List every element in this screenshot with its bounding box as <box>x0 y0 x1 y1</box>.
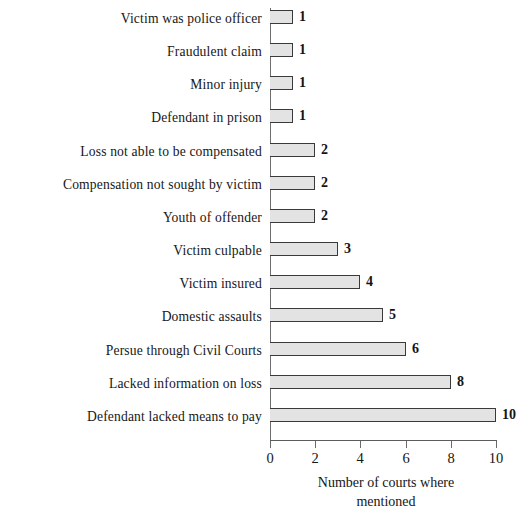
bar-value-label: 1 <box>299 76 306 90</box>
x-axis-tick-label: 4 <box>340 450 380 467</box>
bar <box>270 408 496 422</box>
x-axis-tick-label: 0 <box>250 450 290 467</box>
bar <box>270 43 293 57</box>
category-label: Minor injury <box>0 77 266 92</box>
category-label: Lacked information on loss <box>0 376 266 391</box>
bar <box>270 375 451 389</box>
category-label: Fraudulent claim <box>0 44 266 59</box>
x-axis-tick <box>406 441 407 448</box>
bar-value-label: 2 <box>321 143 328 157</box>
bar-value-label: 5 <box>389 308 396 322</box>
x-axis-title-line-1: Number of courts where <box>270 473 502 492</box>
x-axis-tick-label: 6 <box>386 450 426 467</box>
category-label: Victim was police officer <box>0 11 266 26</box>
bar-value-label: 1 <box>299 109 306 123</box>
bar-value-label: 10 <box>502 408 516 422</box>
horizontal-bar-chart: Victim was police officer Fraudulent cla… <box>0 0 528 517</box>
category-label: Youth of offender <box>0 210 266 225</box>
bar-value-label: 1 <box>299 10 306 24</box>
value-axis-line <box>270 440 497 441</box>
bar-value-label: 3 <box>344 242 351 256</box>
category-label: Victim insured <box>0 276 266 291</box>
category-label: Domestic assaults <box>0 309 266 324</box>
bar-value-label: 8 <box>457 375 464 389</box>
bar <box>270 342 406 356</box>
bar <box>270 109 293 123</box>
bar <box>270 209 315 223</box>
bar <box>270 308 383 322</box>
x-axis-title: Number of courts where mentioned <box>270 473 502 511</box>
x-axis-tick <box>315 441 316 448</box>
plot-area: 1 1 1 1 2 2 2 3 4 5 6 8 10 <box>270 0 502 443</box>
bar-value-label: 4 <box>366 275 373 289</box>
category-label: Compensation not sought by victim <box>0 177 266 192</box>
bar-value-label: 6 <box>412 342 419 356</box>
category-label: Loss not able to be compensated <box>0 144 266 159</box>
category-label: Victim culpable <box>0 243 266 258</box>
bar <box>270 176 315 190</box>
x-axis-tick-label: 10 <box>476 450 516 467</box>
x-axis-tick <box>360 441 361 448</box>
bar-value-label: 1 <box>299 43 306 57</box>
x-axis-tick <box>496 441 497 448</box>
bar <box>270 242 338 256</box>
category-label: Defendant in prison <box>0 110 266 125</box>
bar <box>270 275 360 289</box>
bar-value-label: 2 <box>321 209 328 223</box>
bar <box>270 10 293 24</box>
x-axis-tick <box>451 441 452 448</box>
bar <box>270 143 315 157</box>
x-axis-title-line-2: mentioned <box>270 492 502 511</box>
category-label: Persue through Civil Courts <box>0 343 266 358</box>
bar-value-label: 2 <box>321 176 328 190</box>
bar <box>270 76 293 90</box>
category-label: Defendant lacked means to pay <box>0 409 266 424</box>
x-axis-tick-label: 2 <box>295 450 335 467</box>
x-axis-tick-label: 8 <box>431 450 471 467</box>
x-axis-tick <box>270 441 271 448</box>
